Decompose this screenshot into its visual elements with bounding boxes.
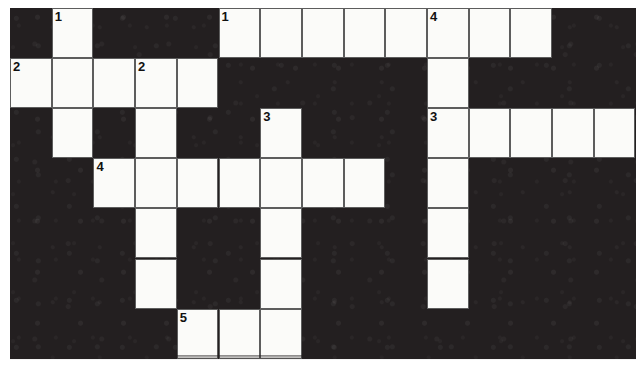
crossword-cell-r7-c6[interactable] (219, 309, 261, 359)
crossword-cell-r3-c13[interactable] (510, 108, 552, 158)
crossword-cell-r1-c2[interactable]: 1 (52, 8, 94, 58)
crossword-cell-r7-c7[interactable] (260, 309, 302, 359)
crossword-cell-r3-c12[interactable] (469, 108, 511, 158)
crossword-cell-r1-c11[interactable]: 4 (427, 8, 469, 58)
crossword-cell-r4-c6[interactable] (219, 158, 261, 208)
crossword-cell-r5-c4[interactable] (135, 208, 177, 258)
cell-number: 4 (96, 159, 103, 174)
crossword-cell-r4-c7[interactable] (260, 158, 302, 208)
crossword-cell-r1-c12[interactable] (469, 8, 511, 58)
crossword-cell-r5-c11[interactable] (427, 208, 469, 258)
cell-number: 2 (13, 59, 20, 74)
crossword-cell-r6-c7[interactable] (260, 259, 302, 309)
crossword-cell-r2-c4[interactable]: 2 (135, 58, 177, 108)
cell-number: 3 (263, 109, 270, 124)
crossword-cell-r6-c11[interactable] (427, 259, 469, 309)
crossword-grid[interactable]: 114223345 (10, 8, 636, 359)
cell-number: 1 (55, 9, 62, 24)
cell-number: 2 (138, 59, 145, 74)
crossword-cells-layer: 114223345 (10, 8, 636, 359)
cell-number: 5 (180, 310, 187, 325)
crossword-cell-r4-c5[interactable] (177, 158, 219, 208)
crossword-cell-r2-c5[interactable] (177, 58, 219, 108)
crossword-cell-r4-c8[interactable] (302, 158, 344, 208)
crossword-cell-r5-c7[interactable] (260, 208, 302, 258)
crossword-cell-r1-c10[interactable] (385, 8, 427, 58)
crossword-cell-r3-c2[interactable] (52, 108, 94, 158)
cell-number: 1 (222, 9, 229, 24)
crossword-cell-r4-c11[interactable] (427, 158, 469, 208)
crossword-cell-r3-c4[interactable] (135, 108, 177, 158)
crossword-cell-r1-c7[interactable] (260, 8, 302, 58)
crossword-cell-r6-c4[interactable] (135, 259, 177, 309)
crossword-cell-r1-c8[interactable] (302, 8, 344, 58)
crossword-cell-r3-c7[interactable]: 3 (260, 108, 302, 158)
crossword-cell-r1-c6[interactable]: 1 (219, 8, 261, 58)
crossword-cell-r2-c3[interactable] (93, 58, 135, 108)
crossword-cell-r3-c11[interactable]: 3 (427, 108, 469, 158)
crossword-cell-r3-c14[interactable] (552, 108, 594, 158)
page-shadow (10, 355, 636, 360)
crossword-cell-r7-c5[interactable]: 5 (177, 309, 219, 359)
crossword-cell-r2-c11[interactable] (427, 58, 469, 108)
crossword-cell-r2-c1[interactable]: 2 (10, 58, 52, 108)
crossword-cell-r1-c9[interactable] (344, 8, 386, 58)
cell-number: 3 (430, 109, 437, 124)
crossword-cell-r3-c15[interactable] (594, 108, 636, 158)
cell-number: 4 (430, 9, 437, 24)
crossword-puzzle: 114223345 (0, 0, 644, 374)
crossword-cell-r4-c9[interactable] (344, 158, 386, 208)
crossword-cell-r4-c3[interactable]: 4 (93, 158, 135, 208)
crossword-cell-r4-c4[interactable] (135, 158, 177, 208)
crossword-cell-r2-c2[interactable] (52, 58, 94, 108)
crossword-cell-r1-c13[interactable] (510, 8, 552, 58)
